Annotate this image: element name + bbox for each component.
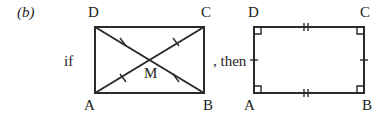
connector-if: if	[64, 53, 73, 69]
right-vertex-a: A	[244, 97, 255, 113]
right-angle-d	[254, 27, 261, 34]
right-angle-b	[357, 86, 364, 93]
right-vertex-d: D	[248, 4, 259, 20]
double-tick-marks	[304, 23, 308, 97]
left-vertex-a: A	[84, 97, 95, 113]
right-vertex-b: B	[362, 97, 372, 113]
right-vertex-c: C	[360, 4, 370, 20]
left-vertex-b: B	[203, 97, 213, 113]
right-rectangle	[254, 27, 364, 93]
left-vertex-c: C	[201, 4, 211, 20]
right-rectangle-figure: D C A B	[244, 4, 372, 113]
right-angle-c	[357, 27, 364, 34]
center-label-m: M	[144, 65, 157, 81]
left-vertex-d: D	[88, 4, 99, 20]
part-label: (b)	[17, 4, 35, 21]
left-rectangle-figure: D C A B M	[84, 4, 213, 113]
right-angle-a	[254, 86, 261, 93]
right-angle-markers	[254, 27, 364, 93]
connector-then: , then	[213, 53, 247, 69]
geometry-diagram: (b) if D C A B M , then	[0, 0, 389, 115]
